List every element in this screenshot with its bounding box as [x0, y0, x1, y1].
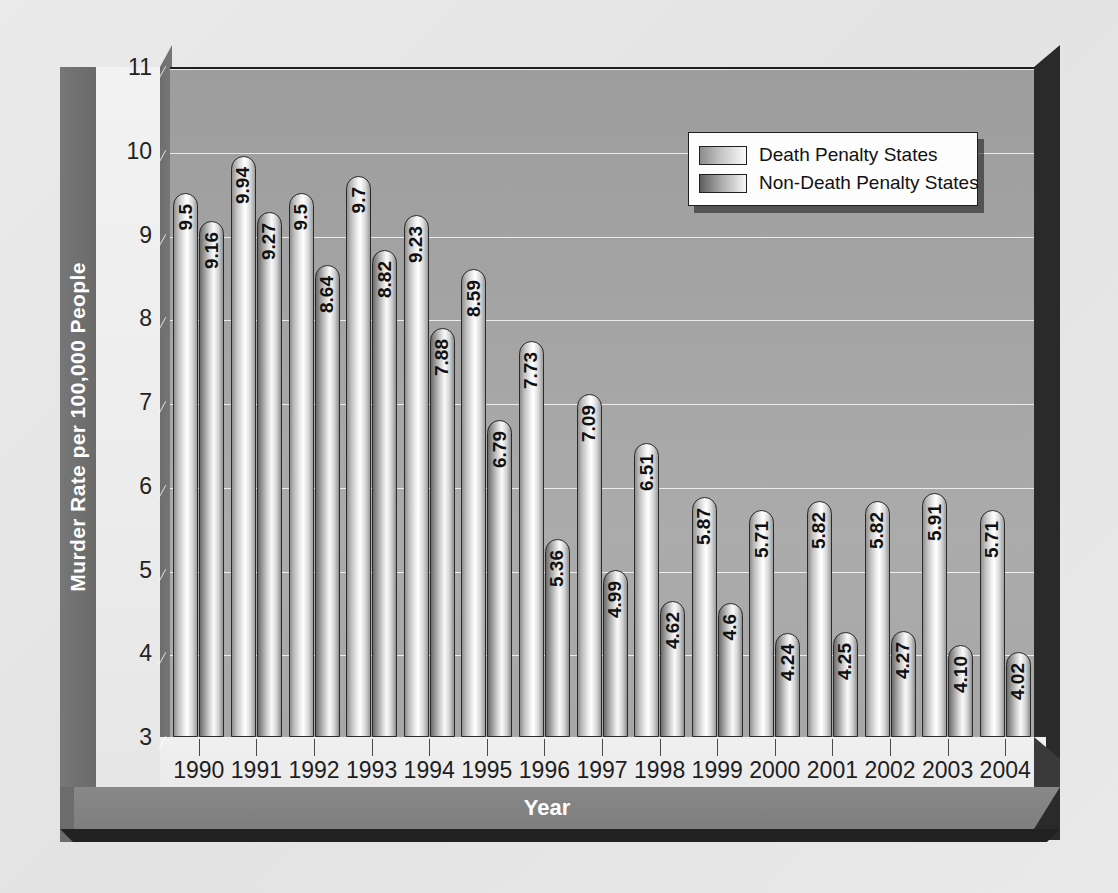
x-axis-tick-mark	[775, 739, 776, 756]
x-axis-tick-label: 1998	[634, 757, 685, 784]
bar-value-label: 5.71	[981, 521, 1003, 558]
bar-value-wrap: 5.87	[693, 498, 716, 736]
bar-value-wrap: 6.51	[635, 444, 658, 736]
bar: 8.82	[372, 250, 397, 737]
bar-value-wrap: 7.73	[520, 342, 543, 736]
x-axis-tick-label: 2004	[980, 757, 1031, 784]
bar-value-wrap: 9.16	[200, 222, 223, 736]
bar: 5.82	[865, 501, 890, 737]
x-axis-tick-mark	[372, 739, 373, 756]
bar-value-label: 9.5	[175, 204, 197, 230]
x-axis-tick-label: 1999	[692, 757, 743, 784]
bar-value-wrap: 8.82	[373, 251, 396, 736]
bar: 4.99	[603, 570, 628, 737]
bar-value-wrap: 8.64	[316, 266, 339, 736]
bar-value-label: 8.64	[316, 276, 338, 313]
bar-value-wrap: 9.5	[290, 194, 313, 736]
bar-value-wrap: 5.71	[750, 511, 773, 736]
bar: 4.6	[718, 603, 743, 737]
bar-value-label: 4.02	[1007, 663, 1029, 700]
legend-item: Non-Death Penalty States	[699, 169, 967, 197]
bar-value-wrap: 4.24	[776, 634, 799, 736]
bar-value-wrap: 6.79	[488, 421, 511, 736]
bar-value-wrap: 5.82	[866, 502, 889, 736]
bar: 9.7	[346, 176, 371, 737]
y-axis-tick-label: 6	[139, 472, 152, 499]
bar: 4.62	[660, 601, 685, 737]
gridline	[170, 69, 1034, 70]
bar-value-label: 4.10	[950, 656, 972, 693]
bar-value-label: 5.82	[808, 512, 830, 549]
bar-value-label: 7.73	[520, 352, 542, 389]
y-axis-tick-label: 8	[139, 305, 152, 332]
y-axis-tick-label: 9	[139, 221, 152, 248]
x-axis-tick-mark	[314, 739, 315, 756]
bar-value-wrap: 4.10	[949, 646, 972, 736]
bar-value-label: 7.88	[431, 339, 453, 376]
bar-value-wrap: 5.36	[546, 540, 569, 736]
bar-value-wrap: 9.7	[347, 177, 370, 736]
base-front-edge	[60, 829, 1060, 842]
bar-value-label: 5.87	[693, 508, 715, 545]
bar-value-wrap: 4.99	[604, 571, 627, 736]
bar-value-label: 9.23	[405, 226, 427, 263]
legend-label: Non-Death Penalty States	[759, 172, 979, 194]
x-axis-tick-label: 1995	[461, 757, 512, 784]
bar-value-wrap: 7.09	[578, 395, 601, 736]
bar: 9.5	[173, 193, 198, 737]
bar-value-label: 4.62	[662, 612, 684, 649]
bar: 5.87	[692, 497, 717, 737]
x-axis-tick-mark	[429, 739, 430, 756]
bar-value-label: 6.51	[636, 454, 658, 491]
x-axis-tick-label: 1996	[519, 757, 570, 784]
x-axis-tick-label: 1992	[288, 757, 339, 784]
legend-label: Death Penalty States	[759, 144, 938, 166]
bar-value-label: 5.71	[751, 521, 773, 558]
bar: 8.64	[315, 265, 340, 737]
x-axis-title-band: Year	[60, 787, 1060, 829]
bar-value-label: 9.5	[290, 204, 312, 230]
legend-swatch	[699, 146, 747, 165]
bar: 9.5	[289, 193, 314, 737]
x-axis-tick-mark	[256, 739, 257, 756]
bar-value-wrap: 5.71	[981, 511, 1004, 736]
legend-item: Death Penalty States	[699, 141, 967, 169]
y-axis-tick-label: 4	[139, 640, 152, 667]
x-axis-tick-mark	[199, 739, 200, 756]
x-axis-tick-label: 2003	[922, 757, 973, 784]
y-axis-tick-label: 3	[139, 724, 152, 751]
bar-value-label: 5.82	[866, 512, 888, 549]
bar: 7.88	[430, 328, 455, 737]
chart-right-3d-face	[1034, 45, 1060, 840]
bar-value-label: 9.7	[348, 187, 370, 213]
x-axis-title: Year	[524, 795, 571, 821]
x-axis-tick-label: 2002	[864, 757, 915, 784]
x-axis-tick-mark	[832, 739, 833, 756]
bar: 9.23	[404, 215, 429, 737]
x-axis-tick-mark	[1005, 739, 1006, 756]
bar: 9.94	[231, 156, 256, 737]
bar-value-label: 5.91	[924, 504, 946, 541]
bar: 4.25	[833, 632, 858, 737]
bar-value-wrap: 8.59	[462, 270, 485, 736]
x-axis-tick-mark	[487, 739, 488, 756]
y-axis-tick-label: 5	[139, 556, 152, 583]
bar: 9.16	[199, 221, 224, 737]
x-axis-tick-mark	[890, 739, 891, 756]
x-axis-tick-label: 1990	[173, 757, 224, 784]
legend-swatch	[699, 174, 747, 193]
bar-value-label: 9.27	[258, 223, 280, 260]
bar: 5.71	[980, 510, 1005, 737]
bar: 4.02	[1006, 652, 1031, 737]
x-axis-tick-label: 1993	[346, 757, 397, 784]
bar-value-wrap: 5.82	[808, 502, 831, 736]
bar-value-wrap: 5.91	[923, 494, 946, 736]
bar-value-label: 4.25	[834, 643, 856, 680]
bar-value-wrap: 9.94	[232, 157, 255, 736]
bar: 4.24	[775, 633, 800, 737]
chart-3d-block: Murder Rate per 100,000 People 345678910…	[60, 45, 1060, 840]
bar-value-wrap: 7.88	[431, 329, 454, 736]
x-axis-tick-label: 1991	[231, 757, 282, 784]
y-axis-tick-label: 10	[126, 137, 152, 164]
bar: 9.27	[257, 212, 282, 737]
